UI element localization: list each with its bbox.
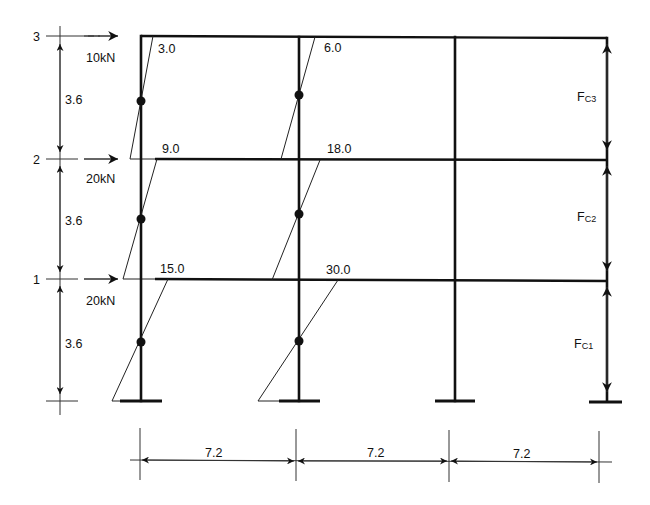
span-1-label: 7.2 [205, 446, 222, 460]
columns [141, 36, 607, 401]
span-2-label: 7.2 [367, 446, 384, 460]
load-3-label: 10kN [86, 51, 115, 65]
fixed-supports [120, 401, 622, 402]
beam-level-3 [141, 36, 607, 38]
moment-b-story2 [272, 160, 320, 280]
span-dimension: 7.2 7.2 7.2 [130, 428, 612, 483]
inflection-point-b3 [295, 91, 304, 100]
inflection-point-b2 [295, 210, 304, 219]
level-3-label: 3 [33, 30, 40, 44]
span-3-label: 7.2 [513, 447, 530, 461]
load-1-label: 20kN [86, 294, 115, 308]
moment-b3-label: 6.0 [324, 41, 341, 55]
story-3-height-label: 3.6 [65, 93, 82, 107]
moment-diagram-column-b: 6.0 18.0 30.0 [258, 37, 351, 401]
moment-a2-label: 9.0 [162, 142, 179, 156]
moment-b2-label: 18.0 [327, 142, 351, 156]
moment-diagram-column-a: 3.0 9.0 15.0 [112, 36, 184, 401]
height-dimension: 3.6 3.6 3.6 3 2 1 [33, 26, 82, 415]
lateral-loads: 10kN 20kN 20kN [78, 36, 118, 308]
story-1-height-label: 3.6 [65, 337, 82, 351]
column-force-arrows: FC3 FC2 FC1 [574, 44, 607, 392]
inflection-point-a2 [137, 215, 146, 224]
moment-a1-label: 15.0 [160, 262, 184, 276]
moment-b1-label: 30.0 [326, 263, 350, 277]
force-c1-label: FC1 [574, 337, 593, 351]
beams [123, 36, 607, 281]
force-c3-label: FC3 [577, 90, 596, 104]
level-2-label: 2 [33, 153, 40, 167]
moment-a3-label: 3.0 [158, 42, 175, 56]
story-2-height-label: 3.6 [65, 214, 82, 228]
beam-level-1 [155, 279, 607, 281]
beam-level-2 [155, 159, 607, 160]
force-c2-label: FC2 [577, 210, 596, 224]
load-2-label: 20kN [86, 172, 115, 186]
inflection-point-b1 [295, 337, 304, 346]
level-1-label: 1 [33, 273, 40, 287]
frame-diagram: 3.6 3.6 3.6 3 2 1 10kN 20kN 20kN [0, 0, 650, 505]
inflection-point-a1 [137, 338, 146, 347]
inflection-point-a3 [137, 97, 146, 106]
